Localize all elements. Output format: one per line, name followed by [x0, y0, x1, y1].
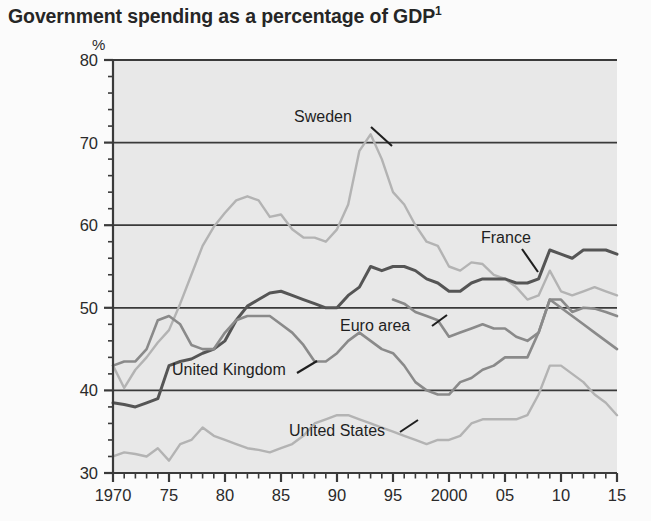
annotation-label-euro-area: Euro area	[340, 317, 410, 334]
svg-text:70: 70	[80, 134, 98, 152]
annotation-label-sweden: Sweden	[294, 108, 352, 125]
chart-container: 807060504030 197075808590952000051015 Sw…	[0, 0, 651, 521]
svg-text:10: 10	[552, 486, 570, 504]
plot-background	[113, 60, 617, 473]
svg-text:50: 50	[80, 299, 98, 317]
svg-text:90: 90	[328, 486, 346, 504]
svg-text:60: 60	[80, 216, 98, 234]
svg-text:1970: 1970	[95, 486, 132, 504]
annotation-label-united-kingdom: United Kingdom	[172, 361, 286, 378]
annotation-label-france: France	[481, 229, 531, 246]
svg-text:95: 95	[384, 486, 402, 504]
line-chart-svg: 807060504030 197075808590952000051015 Sw…	[0, 0, 651, 521]
y-axis-tick-labels: 807060504030	[80, 51, 98, 482]
annotation-label-united-states: United States	[289, 422, 385, 439]
svg-text:85: 85	[272, 486, 290, 504]
x-axis-ticks	[113, 473, 617, 482]
svg-text:80: 80	[216, 486, 234, 504]
x-axis-tick-labels: 197075808590952000051015	[95, 486, 627, 504]
svg-text:15: 15	[608, 486, 626, 504]
svg-text:30: 30	[80, 464, 98, 482]
svg-text:2000: 2000	[431, 486, 468, 504]
svg-text:05: 05	[496, 486, 514, 504]
svg-text:40: 40	[80, 381, 98, 399]
y-axis-ticks	[104, 60, 113, 473]
svg-text:75: 75	[160, 486, 178, 504]
svg-text:80: 80	[80, 51, 98, 69]
